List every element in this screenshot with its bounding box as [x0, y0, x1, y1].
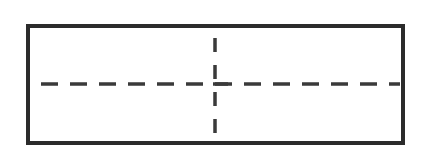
diagram-canvas	[0, 0, 422, 167]
